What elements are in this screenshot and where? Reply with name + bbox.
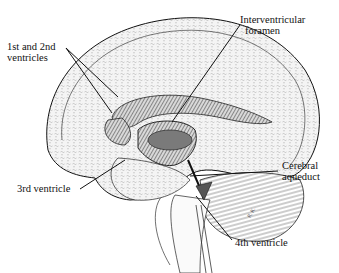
label-line: aqueduct [282, 171, 320, 182]
label-line: foramen [240, 25, 305, 36]
label-1st-2nd-ventricles: 1st and 2nd ventricles [7, 41, 55, 63]
label-line: Cerebral [282, 160, 320, 171]
label-line: 1st and 2nd [7, 41, 55, 52]
label-interventricular-foramen: Interventricular foramen [240, 14, 305, 36]
label-line: ventricles [7, 52, 55, 63]
label-cerebral-aqueduct: Cerebral aqueduct [282, 160, 320, 182]
label-line: 3rd ventricle [17, 183, 70, 194]
thalamus [148, 130, 192, 150]
label-line: 4th ventricle [235, 237, 288, 248]
pons-outline [155, 196, 170, 265]
label-3rd-ventricle: 3rd ventricle [17, 183, 70, 194]
label-4th-ventricle: 4th ventricle [235, 237, 288, 248]
label-line: Interventricular [240, 14, 305, 25]
